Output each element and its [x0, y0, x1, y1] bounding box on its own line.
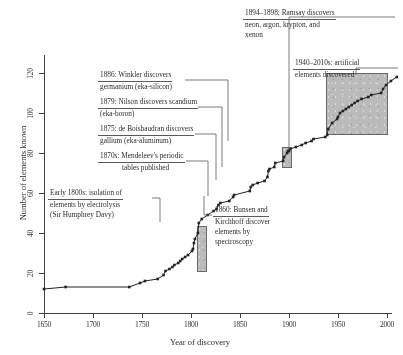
annotation-davy-line-3: (Sir Humphrey Davy) [48, 210, 123, 220]
leader-line-artificial [356, 68, 398, 75]
leader-line-davy [152, 198, 160, 222]
annotation-winkler: 1886: Winkler discovers germanium (eka-s… [98, 70, 172, 92]
annotation-bunsen-line-3: elements by [213, 227, 270, 237]
annotation-leader-lines [0, 0, 403, 355]
annotation-nilson: 1879: Nilson discovers scandium (eka-bor… [98, 97, 198, 119]
annotation-ramsay-line-1: 1894–1898; Ramsay discovers [243, 8, 336, 20]
annotation-davy: Early 1800s: isolation of elements by el… [48, 188, 123, 220]
annotation-nilson-line-2: (eka-boron) [98, 109, 198, 119]
annotation-artificial-line-1: 1940–2010s: artificial [293, 58, 360, 70]
annotation-winkler-line-2: germanium (eka-silicon) [98, 82, 172, 92]
annotation-davy-line-1: Early 1800s: isolation of [48, 188, 123, 200]
annotation-mendeleev-line-1: 1870s: Mendeleev's periodic [98, 151, 185, 163]
annotation-ramsay: 1894–1898; Ramsay discovers neon, argon,… [243, 8, 336, 40]
leader-line-mendeleev [186, 161, 208, 196]
annotation-boisbaudran-line-1: 1875: de Boisbaudran discovers [98, 124, 194, 136]
annotation-mendeleev: 1870s: Mendeleev's periodic tables publi… [98, 151, 185, 173]
annotation-bunsen-line-2: Kirchhoff discover [213, 217, 270, 227]
chart-figure: 0 20 40 60 80 100 120 1650 1700 1750 180… [0, 0, 403, 355]
annotation-nilson-line-1: 1879: Nilson discovers scandium [98, 97, 198, 109]
annotation-ramsay-line-2: neon, argon, krypton, and [243, 20, 336, 30]
leader-line-bunsen [204, 196, 212, 215]
annotation-bunsen-line-1: 1860: Bunsen and [213, 205, 269, 217]
annotation-artificial-line-2: elements discovered [293, 70, 360, 80]
annotation-winkler-line-1: 1886: Winkler discovers [98, 70, 172, 82]
leader-line-nilson [198, 107, 222, 167]
annotation-bunsen-line-4: spectroscopy [213, 237, 270, 247]
annotation-artificial: 1940–2010s: artificial elements discover… [293, 58, 360, 80]
annotation-ramsay-line-3: xenon [243, 30, 336, 40]
leader-line-boisbaudran [195, 134, 216, 180]
annotation-mendeleev-line-2: tables published [98, 163, 185, 173]
annotation-boisbaudran: 1875: de Boisbaudran discovers gallium (… [98, 124, 194, 146]
annotation-bunsen: 1860: Bunsen and Kirchhoff discover elem… [213, 205, 270, 247]
annotation-boisbaudran-line-2: gallium (eka-aluminum) [98, 136, 194, 146]
annotation-davy-line-2: elements by electrolysis [48, 200, 123, 210]
